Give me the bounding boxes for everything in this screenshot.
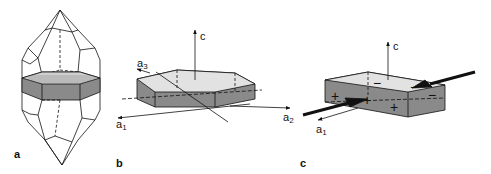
panel-label-b: b <box>116 157 123 169</box>
axis-label-a1-b: a1 <box>116 118 127 132</box>
panel-b-hexagonal-plate <box>118 30 290 122</box>
axis-label-c-b: c <box>200 30 206 42</box>
axis-label-a2: a2 <box>283 111 294 125</box>
svg-text:−: − <box>410 79 418 95</box>
svg-text:+: + <box>363 92 371 108</box>
svg-text:−: − <box>428 87 436 103</box>
axis-label-c-c: c <box>393 40 399 52</box>
panel-label-a: a <box>14 148 21 160</box>
axis-label-a1-c: a1 <box>316 123 327 137</box>
svg-text:−: − <box>373 75 381 91</box>
panel-c-rectangular-plate <box>303 42 475 120</box>
panel-label-c: c <box>300 157 306 169</box>
axis-label-a3: a3 <box>137 57 148 71</box>
svg-text:+: + <box>331 88 339 104</box>
figure-canvas: a c a3 a1 a2 b + + + − − − c <box>0 0 491 174</box>
panel-a-crystal <box>22 10 100 165</box>
svg-text:+: + <box>390 99 398 115</box>
